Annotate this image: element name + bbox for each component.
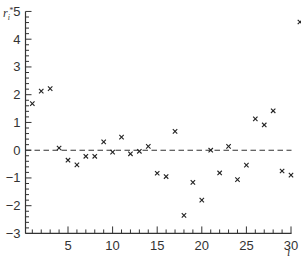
y-tick-label: 2: [13, 87, 20, 102]
data-point-marker: [182, 213, 186, 217]
y-tick-label: −3: [6, 226, 21, 241]
data-point-marker: [235, 177, 239, 181]
y-tick-label: 5: [13, 4, 20, 19]
scatter-chart: −3−2−1012345 51015202530 ri* i: [0, 0, 301, 261]
y-tick-label: −2: [6, 198, 21, 213]
data-point-marker: [84, 154, 88, 158]
y-axis: −3−2−1012345: [6, 4, 32, 241]
data-point-marker: [93, 154, 97, 158]
x-tick-label: 15: [150, 238, 164, 253]
data-point-marker: [146, 144, 150, 148]
data-point-marker: [244, 163, 248, 167]
x-tick-label: 30: [284, 238, 298, 253]
data-point-marker: [48, 86, 52, 90]
data-point-marker: [66, 158, 70, 162]
data-point-marker: [280, 169, 284, 173]
data-point-marker: [137, 149, 141, 153]
x-tick-label: 25: [239, 238, 253, 253]
data-point-marker: [271, 109, 275, 113]
data-markers: [30, 20, 301, 218]
x-tick-label: 10: [105, 238, 119, 253]
data-point-marker: [101, 140, 105, 144]
data-point-marker: [226, 144, 230, 148]
y-tick-label: 3: [13, 59, 20, 74]
data-point-marker: [39, 89, 43, 93]
data-point-marker: [200, 198, 204, 202]
data-point-marker: [298, 20, 301, 24]
data-point-marker: [253, 117, 257, 121]
data-point-marker: [173, 129, 177, 133]
data-point-marker: [191, 180, 195, 184]
data-point-marker: [262, 123, 266, 127]
y-tick-label: 1: [13, 115, 20, 130]
data-point-marker: [289, 173, 293, 177]
data-point-marker: [128, 152, 132, 156]
x-tick-label: 20: [195, 238, 209, 253]
data-point-marker: [164, 174, 168, 178]
y-tick-label: −1: [6, 170, 21, 185]
x-tick-label: 5: [64, 238, 71, 253]
data-point-marker: [110, 150, 114, 154]
data-point-marker: [155, 171, 159, 175]
data-point-marker: [217, 171, 221, 175]
y-axis-label: ri*: [3, 6, 13, 22]
y-tick-label: 4: [13, 32, 20, 47]
data-point-marker: [75, 163, 79, 167]
data-point-marker: [57, 146, 61, 150]
x-axis-label: i: [287, 245, 290, 259]
y-tick-label: 0: [13, 143, 20, 158]
x-axis: 51015202530: [26, 226, 299, 253]
data-point-marker: [30, 101, 34, 105]
data-point-marker: [119, 135, 123, 139]
